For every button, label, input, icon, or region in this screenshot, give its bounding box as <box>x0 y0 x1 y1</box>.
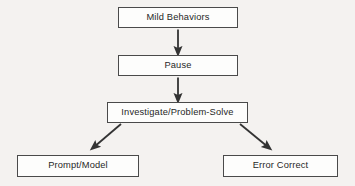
connector-investigate-to-error-correct <box>240 124 268 147</box>
node-investigate-problem-solve: Investigate/Problem-Solve <box>107 102 248 123</box>
node-mild-behaviors-label: Mild Behaviors <box>146 13 209 22</box>
node-mild-behaviors: Mild Behaviors <box>118 7 238 28</box>
node-error-correct: Error Correct <box>223 155 338 177</box>
node-pause: Pause <box>118 55 238 76</box>
connector-investigate-to-prompt-model <box>94 124 121 147</box>
node-error-correct-label: Error Correct <box>253 161 309 170</box>
node-investigate-problem-solve-label: Investigate/Problem-Solve <box>121 108 233 117</box>
node-pause-label: Pause <box>164 61 191 70</box>
flowchart-diagram: Mild Behaviors Pause Investigate/Problem… <box>0 0 355 186</box>
node-prompt-model-label: Prompt/Model <box>48 161 108 170</box>
node-prompt-model: Prompt/Model <box>17 155 139 177</box>
